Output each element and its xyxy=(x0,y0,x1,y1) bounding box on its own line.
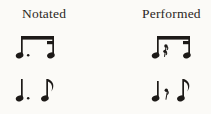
notehead-icon xyxy=(40,94,49,102)
notehead-icon xyxy=(46,51,55,59)
rhythm-comparison-figure: Notated Performed xyxy=(0,0,211,114)
notehead-icon xyxy=(182,51,191,59)
beam-icon xyxy=(21,36,54,40)
notehead-icon xyxy=(151,94,160,102)
notehead-icon xyxy=(15,94,24,102)
notation-group-notated-row1 xyxy=(16,33,86,69)
beam-icon xyxy=(157,36,190,40)
notation-group-performed-row1 xyxy=(152,33,211,69)
notehead-icon xyxy=(151,51,160,59)
notation-group-performed-row2 xyxy=(152,76,211,112)
sixteenth-rest-icon xyxy=(163,44,168,57)
augmentation-dot-icon xyxy=(27,54,30,57)
notehead-icon xyxy=(15,51,24,59)
eighth-rest-icon xyxy=(165,89,169,100)
column-header-performed: Performed xyxy=(142,7,201,21)
flag-icon xyxy=(184,79,189,91)
column-header-notated: Notated xyxy=(22,7,66,21)
flag-icon xyxy=(48,79,53,91)
augmentation-dot-icon xyxy=(27,97,30,100)
notehead-icon xyxy=(176,94,185,102)
notation-group-notated-row2 xyxy=(16,76,86,112)
